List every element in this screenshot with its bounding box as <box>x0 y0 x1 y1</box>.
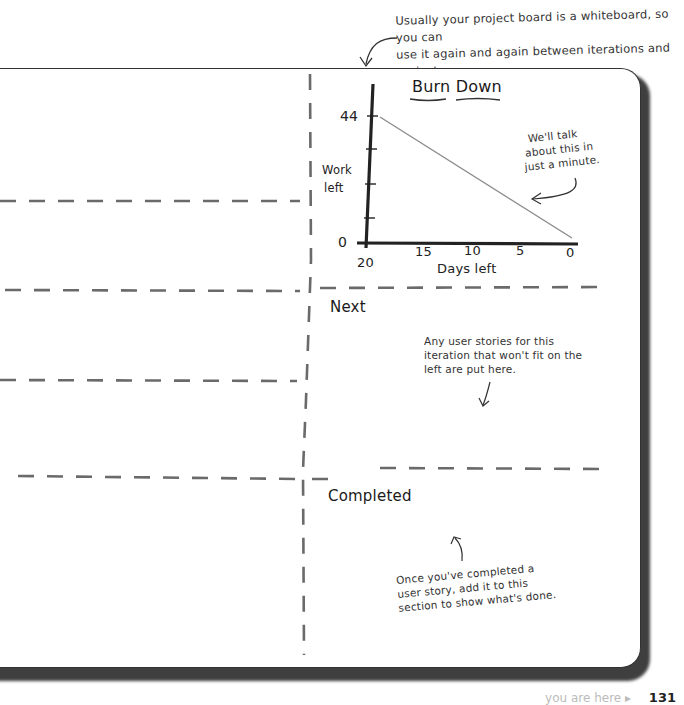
page-footer: you are here ▸ 131 <box>545 690 676 705</box>
next-annotation-line-1: Any user stories for this <box>424 334 582 348</box>
x-tick-10: 10 <box>464 243 481 258</box>
y-tick-44: 44 <box>340 108 358 124</box>
up-arrow-icon <box>448 534 472 564</box>
next-annotation-line-2: iteration that won't fit on the <box>424 348 582 362</box>
y-axis-label-line-1: Work <box>322 163 352 177</box>
page-number: 131 <box>649 690 676 705</box>
x-tick-15: 15 <box>415 244 432 259</box>
y-tick-0: 0 <box>338 234 347 250</box>
next-section-annotation: Any user stories for this iteration that… <box>424 334 582 376</box>
burn-down-annotation: We'll talk about this in just a minute. <box>521 124 600 174</box>
y-axis-label-line-2: left <box>324 181 343 195</box>
running-head: you are here ▸ <box>545 691 631 705</box>
x-tick-20: 20 <box>357 255 374 270</box>
next-annotation-line-3: left are put here. <box>424 362 582 376</box>
x-tick-5: 5 <box>516 243 524 258</box>
x-tick-0: 0 <box>566 245 574 260</box>
down-arrow-icon <box>474 380 498 410</box>
y-axis <box>366 84 373 248</box>
x-axis-label: Days left <box>437 261 496 276</box>
completed-section-title: Completed <box>328 487 412 505</box>
next-section-title: Next <box>330 298 366 316</box>
